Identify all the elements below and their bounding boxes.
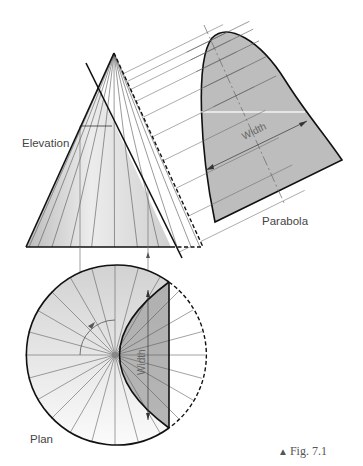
fig-7-1-cone-parabola-diagram: Width Width Elevation Parabola Plan ▲Fig… xyxy=(0,0,363,466)
figure-caption: ▲Fig. 7.1 xyxy=(278,444,327,459)
plan-label: Plan xyxy=(30,433,53,445)
caption-text: Fig. 7.1 xyxy=(290,444,327,458)
diagram-canvas xyxy=(0,0,363,466)
plan-view xyxy=(25,265,206,445)
elevation-label: Elevation xyxy=(22,137,69,149)
width-label-plan: Width xyxy=(136,349,147,375)
triangle-marker-icon: ▲ xyxy=(278,446,288,457)
parabola-label: Parabola xyxy=(262,215,308,227)
